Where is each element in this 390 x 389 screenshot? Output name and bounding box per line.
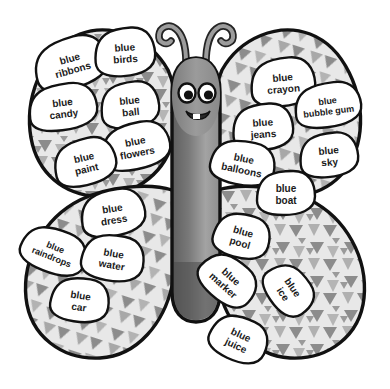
- label-line-1: blue: [272, 71, 294, 84]
- label-line-1: blue: [318, 144, 340, 157]
- left-eye-pupil: [184, 90, 193, 99]
- label-line-1: blue: [114, 41, 136, 53]
- label-line-2: ball: [122, 106, 141, 119]
- label-line-2: sky: [321, 156, 339, 168]
- butterfly-canvas: blueribbonsbluebirdsbluecandyblueballblu…: [0, 0, 390, 389]
- label-line-2: boat: [275, 195, 297, 206]
- label-line-1: blue: [252, 116, 274, 128]
- butterfly-illustration: blueribbonsbluebirdsbluecandyblueballblu…: [0, 0, 390, 389]
- right-eye-pupil: [204, 90, 213, 99]
- tooth-icon: [193, 114, 200, 119]
- label-line-2: jeans: [249, 128, 277, 141]
- label-line-2: car: [71, 301, 88, 314]
- label-line-2: birds: [113, 53, 139, 66]
- word-label-blue-boat: blueboat: [257, 171, 315, 215]
- label-line-1: blue: [276, 183, 297, 194]
